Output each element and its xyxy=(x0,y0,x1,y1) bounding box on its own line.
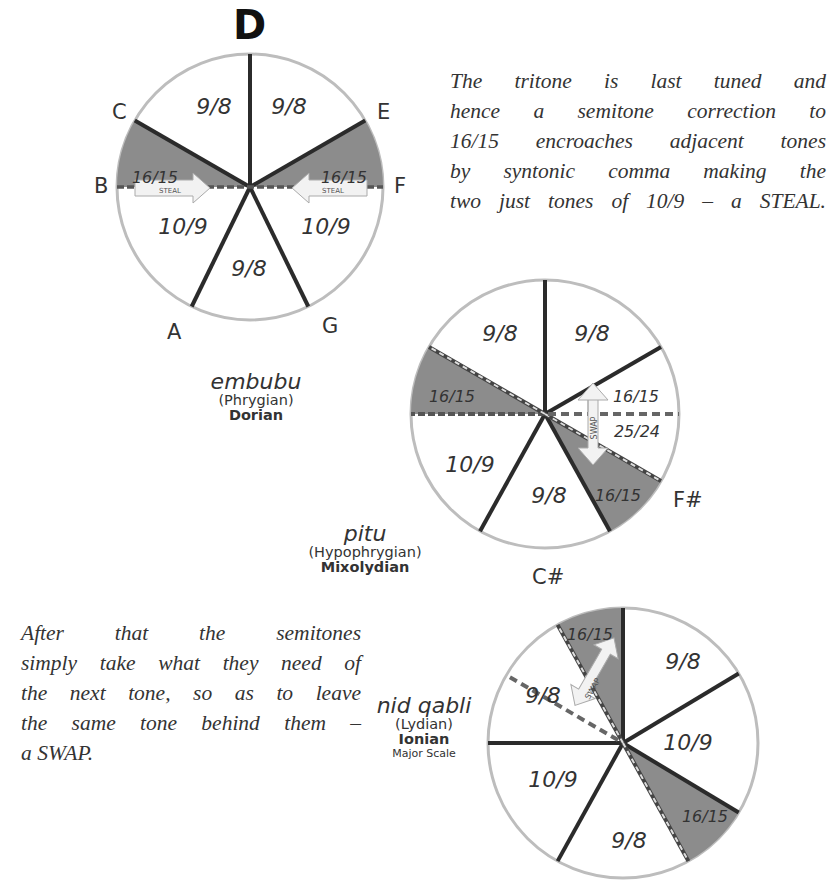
note-label-F-sharp: F# xyxy=(673,488,703,512)
note-label-A: A xyxy=(167,320,181,344)
mode-native-name: pitu xyxy=(292,522,438,545)
mode-native-name: nid qabli xyxy=(368,694,480,717)
ratio-label: 16/15 xyxy=(321,168,367,187)
steal-explanation: The tritone is last tuned and hence a se… xyxy=(450,66,826,216)
mode-native-name: embubu xyxy=(200,370,312,393)
ratio-label: 16/15 xyxy=(132,168,178,187)
mode-old-greek-name: (Lydian) xyxy=(368,717,480,732)
mode-caption-pitu: pitu (Hypophrygian) Mixolydian xyxy=(292,522,438,576)
note-label-D: D xyxy=(233,2,266,48)
mode-modern-name: Mixolydian xyxy=(292,560,438,575)
ratio-label: 9/8 xyxy=(231,256,266,281)
steal-label: STEAL xyxy=(159,187,181,195)
ratio-label: 9/8 xyxy=(271,94,306,119)
mode-modern-name: Ionian xyxy=(368,732,480,747)
ratio-label: 10/9 xyxy=(445,452,494,477)
ratio-label: 9/8 xyxy=(611,828,646,853)
ratio-label: 10/9 xyxy=(158,214,207,239)
ratio-label: 16/15 xyxy=(595,486,641,505)
ratio-label: 9/8 xyxy=(482,321,517,346)
swap-label: SWAP xyxy=(590,416,599,439)
ratio-label: 25/24 xyxy=(614,422,660,441)
note-label-E: E xyxy=(377,100,390,124)
ratio-label: 10/9 xyxy=(663,730,712,755)
swap-explanation: After that the semitones simply take wha… xyxy=(21,618,361,768)
steal-label: STEAL xyxy=(322,187,344,195)
ratio-label: 16/15 xyxy=(613,387,659,406)
ratio-label: 16/15 xyxy=(429,387,475,406)
mode-caption-embubu: embubu (Phrygian) Dorian xyxy=(200,370,312,424)
ratio-label: 9/8 xyxy=(665,649,700,674)
note-label-F: F xyxy=(394,174,406,198)
mode-old-greek-name: (Hypophrygian) xyxy=(292,545,438,560)
mode-modern-name: Dorian xyxy=(200,408,312,423)
ratio-label: 9/8 xyxy=(196,94,231,119)
ratio-label: 10/9 xyxy=(301,214,350,239)
ratio-label: 9/8 xyxy=(525,683,560,708)
ratio-label: 10/9 xyxy=(528,767,577,792)
mode-caption-nid-qabli: nid qabli (Lydian) Ionian Major Scale xyxy=(368,694,480,759)
note-label-C-sharp: C# xyxy=(532,565,564,589)
mode-subtitle: Major Scale xyxy=(368,748,480,760)
note-label-B: B xyxy=(94,174,108,198)
ratio-label: 9/8 xyxy=(531,483,566,508)
mode-old-greek-name: (Phrygian) xyxy=(200,393,312,408)
ratio-label: 9/8 xyxy=(574,321,609,346)
note-label-C: C xyxy=(112,100,127,124)
ratio-label: 16/15 xyxy=(682,807,728,826)
note-label-G: G xyxy=(322,314,338,338)
ratio-label: 16/15 xyxy=(567,625,613,644)
